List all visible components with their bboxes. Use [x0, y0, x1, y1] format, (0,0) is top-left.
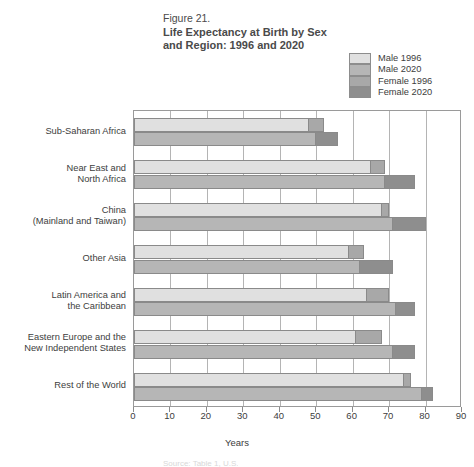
legend-swatch-icon — [349, 87, 371, 98]
category-label: Other Asia — [8, 253, 126, 264]
legend-swatch-icon — [349, 76, 371, 87]
figure-title-line-1: Life Expectancy at Birth by Sex — [163, 26, 423, 40]
category-label-line: China — [8, 205, 126, 216]
category-label-line: Eastern Europe and the — [8, 332, 126, 343]
x-axis-tick-label: 20 — [191, 410, 221, 421]
category-label-line: Sub-Saharan Africa — [8, 126, 126, 137]
bar-segment-male-1996 — [134, 160, 371, 174]
bar-segment-male-1996 — [134, 203, 382, 217]
legend-swatch-icon — [349, 53, 371, 64]
category-label-line: (Mainland and Taiwan) — [8, 216, 126, 227]
gridline — [426, 111, 427, 406]
category-label: Near East andNorth Africa — [8, 163, 126, 185]
x-axis-tick-label: 0 — [118, 410, 148, 421]
chart-legend: Male 1996Male 2020Female 1996Female 2020 — [349, 53, 432, 98]
legend-item: Male 2020 — [349, 64, 432, 75]
x-axis-tick-label: 40 — [264, 410, 294, 421]
category-label-line: the Caribbean — [8, 301, 126, 312]
legend-item-label: Male 2020 — [378, 64, 421, 75]
bar-segment-male-2020 — [134, 302, 396, 316]
bar-segment-male-2020 — [134, 387, 422, 401]
plot-area — [133, 110, 461, 407]
x-axis-title: Years — [0, 437, 474, 448]
x-axis-tick-label: 30 — [227, 410, 257, 421]
bar-segment-male-2020 — [134, 132, 316, 146]
bar-segment-male-2020 — [134, 260, 360, 274]
category-label: Sub-Saharan Africa — [8, 126, 126, 137]
x-axis-tick-label: 60 — [337, 410, 367, 421]
figure-title-block: Figure 21. Life Expectancy at Birth by S… — [163, 12, 423, 53]
category-label-line: New Independent States — [8, 343, 126, 354]
legend-item-label: Female 1996 — [378, 76, 432, 87]
x-axis-tick-label: 70 — [373, 410, 403, 421]
bar-segment-male-1996 — [134, 288, 367, 302]
category-label-line: Near East and — [8, 163, 126, 174]
bar-segment-male-1996 — [134, 118, 309, 132]
legend-item-label: Female 2020 — [378, 87, 432, 98]
category-label: Rest of the World — [8, 380, 126, 391]
bar-segment-male-2020 — [134, 217, 393, 231]
x-axis-tick-label: 90 — [446, 410, 474, 421]
x-axis-tick-label: 50 — [300, 410, 330, 421]
category-label: China(Mainland and Taiwan) — [8, 205, 126, 227]
legend-item: Female 1996 — [349, 76, 432, 87]
category-label-line: Rest of the World — [8, 380, 126, 391]
category-label: Latin America andthe Caribbean — [8, 290, 126, 312]
figure-container: Figure 21. Life Expectancy at Birth by S… — [0, 0, 474, 467]
legend-swatch-icon — [349, 64, 371, 75]
x-axis-tick-label: 80 — [410, 410, 440, 421]
x-axis-tick-label: 10 — [154, 410, 184, 421]
category-label-line: Other Asia — [8, 253, 126, 264]
bar-segment-male-2020 — [134, 345, 393, 359]
category-label-line: North Africa — [8, 174, 126, 185]
bar-segment-male-2020 — [134, 175, 385, 189]
bar-segment-male-1996 — [134, 373, 404, 387]
legend-item: Female 2020 — [349, 87, 432, 98]
legend-item: Male 1996 — [349, 53, 432, 64]
bar-segment-male-1996 — [134, 245, 349, 259]
bar-segment-male-1996 — [134, 330, 356, 344]
gridline — [389, 111, 390, 406]
category-label: Eastern Europe and theNew Independent St… — [8, 332, 126, 354]
category-label-line: Latin America and — [8, 290, 126, 301]
figure-number: Figure 21. — [163, 12, 423, 26]
source-note: Source: Table 1, U.S. — [163, 459, 238, 467]
figure-title-line-2: and Region: 1996 and 2020 — [163, 39, 423, 53]
legend-item-label: Male 1996 — [378, 53, 421, 64]
